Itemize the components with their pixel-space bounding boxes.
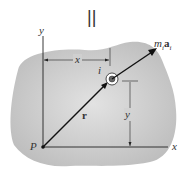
- force-label: miai: [154, 38, 171, 52]
- equals-sign: ||: [87, 8, 96, 26]
- force-mass: m: [154, 37, 162, 49]
- particle-label: i: [98, 65, 101, 76]
- origin-point: [41, 145, 45, 149]
- force-accel-sub: i: [169, 44, 171, 52]
- position-vector-label: r: [82, 110, 87, 121]
- x-dimension-label: x: [73, 54, 82, 65]
- x-axis-label: x: [172, 141, 177, 152]
- origin-label: P: [30, 141, 37, 152]
- y-axis-label: y: [39, 25, 44, 36]
- y-dimension-label: y: [124, 108, 131, 121]
